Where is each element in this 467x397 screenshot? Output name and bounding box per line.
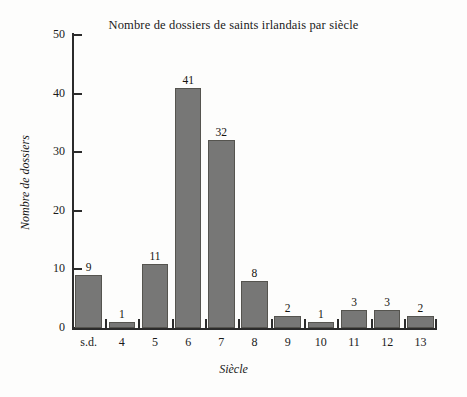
x-tick-label-9: 9 bbox=[285, 335, 291, 350]
x-tick-label-6: 6 bbox=[185, 335, 191, 350]
y-tick-label: 10 bbox=[53, 261, 65, 276]
chart-title: Nombre de dossiers de saints irlandais p… bbox=[0, 18, 467, 33]
bar-12[interactable]: 3 bbox=[374, 310, 401, 328]
y-tick-label: 50 bbox=[53, 27, 65, 42]
x-axis-line bbox=[72, 328, 437, 330]
bar-8[interactable]: 8 bbox=[241, 281, 268, 328]
x-tick-mark bbox=[72, 319, 74, 328]
x-axis-title: Siècle bbox=[0, 362, 467, 377]
bar-value-label: 2 bbox=[418, 302, 424, 314]
x-tick-mark bbox=[271, 319, 273, 328]
x-tick-mark bbox=[304, 319, 306, 328]
bar-value-label: 41 bbox=[182, 74, 194, 86]
plot-area: 01020304050 91114132821332 s.d.456789101… bbox=[72, 33, 437, 330]
bar-7[interactable]: 32 bbox=[208, 140, 235, 328]
x-tick-label-11: 11 bbox=[348, 335, 360, 350]
y-axis-line bbox=[72, 33, 74, 330]
x-tick-mark bbox=[238, 319, 240, 328]
bar-value-label: 8 bbox=[252, 267, 258, 279]
y-tick-label: 40 bbox=[53, 86, 65, 101]
y-tick-label: 0 bbox=[59, 320, 65, 335]
bar-chart-figure: Nombre de dossiers de saints irlandais p… bbox=[0, 0, 467, 397]
x-tick-label-8: 8 bbox=[252, 335, 258, 350]
x-tick-mark bbox=[371, 319, 373, 328]
bar-value-label: 2 bbox=[285, 302, 291, 314]
x-tick-label-12: 12 bbox=[381, 335, 393, 350]
x-tick-label-sd: s.d. bbox=[80, 335, 97, 350]
y-tick-mark bbox=[74, 34, 82, 36]
x-tick-mark bbox=[337, 319, 339, 328]
bar-11[interactable]: 3 bbox=[341, 310, 368, 328]
x-tick-label-5: 5 bbox=[152, 335, 158, 350]
x-tick-mark bbox=[205, 319, 207, 328]
bar-9[interactable]: 2 bbox=[274, 316, 301, 328]
bar-value-label: 1 bbox=[119, 308, 125, 320]
y-tick-mark bbox=[74, 210, 82, 212]
bar-6[interactable]: 41 bbox=[175, 88, 202, 328]
bar-value-label: 11 bbox=[149, 250, 160, 262]
x-tick-label-13: 13 bbox=[414, 335, 426, 350]
x-tick-label-4: 4 bbox=[119, 335, 125, 350]
bar-value-label: 1 bbox=[318, 308, 324, 320]
bar-value-label: 3 bbox=[384, 296, 390, 308]
y-tick-mark bbox=[74, 151, 82, 153]
y-tick-mark bbox=[74, 268, 82, 270]
x-tick-mark bbox=[105, 319, 107, 328]
x-tick-mark bbox=[138, 319, 140, 328]
bar-value-label: 9 bbox=[86, 261, 92, 273]
y-tick-label: 20 bbox=[53, 203, 65, 218]
bar-10[interactable]: 1 bbox=[308, 322, 335, 328]
bar-5[interactable]: 11 bbox=[142, 264, 169, 328]
y-tick-mark bbox=[74, 93, 82, 95]
bar-value-label: 32 bbox=[216, 126, 228, 138]
bar-value-label: 3 bbox=[351, 296, 357, 308]
x-tick-label-10: 10 bbox=[315, 335, 327, 350]
x-tick-mark bbox=[404, 319, 406, 328]
x-tick-label-7: 7 bbox=[218, 335, 224, 350]
bar-13[interactable]: 2 bbox=[407, 316, 434, 328]
x-tick-mark bbox=[435, 319, 437, 328]
x-tick-mark bbox=[172, 319, 174, 328]
bar-4[interactable]: 1 bbox=[109, 322, 136, 328]
y-tick-label: 30 bbox=[53, 144, 65, 159]
bar-sd[interactable]: 9 bbox=[75, 275, 102, 328]
y-axis-title: Nombre de dossiers bbox=[18, 113, 33, 253]
